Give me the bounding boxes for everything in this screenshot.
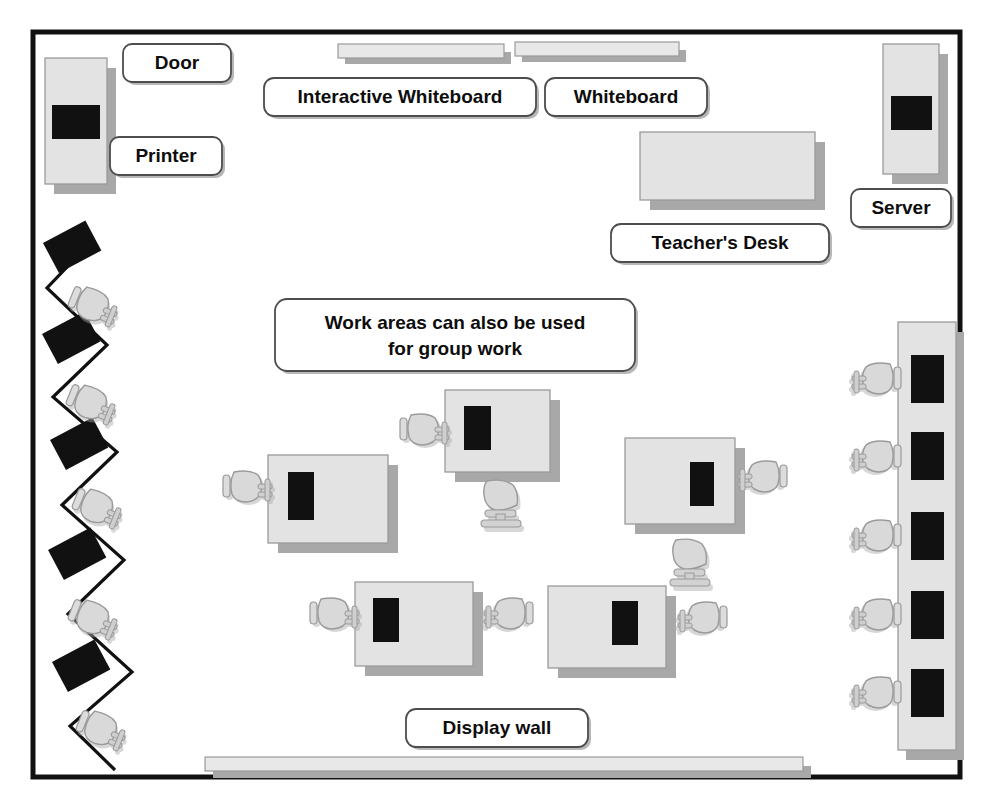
- whiteboard-strip: [515, 42, 686, 62]
- floorplan-canvas: Door Printer Interactive Whiteboard Whit…: [0, 0, 993, 807]
- workstation-bottom-left: [355, 582, 483, 676]
- classroom-layout-diagram: Door Printer Interactive Whiteboard Whit…: [0, 0, 993, 807]
- workstation-center-right: [625, 438, 745, 534]
- callout-work-areas[interactable]: Work areas can also be used for group wo…: [275, 299, 638, 374]
- callout-work-areas-line1: Work areas can also be used: [325, 312, 586, 333]
- interactive-whiteboard-strip: [338, 44, 511, 64]
- label-server-text: Server: [871, 197, 931, 218]
- workstation-center-top: [445, 390, 560, 482]
- label-printer-text: Printer: [135, 145, 197, 166]
- display-wall-strip: [205, 757, 811, 778]
- callout-work-areas-line2: for group work: [388, 338, 522, 359]
- label-door[interactable]: Door: [123, 44, 234, 85]
- workstation-bottom-right: [548, 586, 676, 678]
- server-unit: [883, 44, 948, 184]
- label-printer[interactable]: Printer: [110, 137, 225, 178]
- printer-unit: [45, 58, 116, 194]
- label-whiteboard-text: Whiteboard: [574, 86, 679, 107]
- teachers-desk-surface: [640, 132, 825, 210]
- label-display-wall[interactable]: Display wall: [406, 709, 591, 750]
- label-interactive-whiteboard[interactable]: Interactive Whiteboard: [264, 78, 539, 119]
- workstation-center-left: [268, 455, 398, 553]
- label-whiteboard[interactable]: Whiteboard: [545, 78, 710, 119]
- label-door-text: Door: [155, 52, 200, 73]
- label-server[interactable]: Server: [851, 189, 954, 230]
- label-teachers-desk[interactable]: Teacher's Desk: [611, 224, 832, 265]
- label-display-wall-text: Display wall: [443, 717, 552, 738]
- label-interactive-whiteboard-text: Interactive Whiteboard: [298, 86, 503, 107]
- label-teachers-desk-text: Teacher's Desk: [651, 232, 789, 253]
